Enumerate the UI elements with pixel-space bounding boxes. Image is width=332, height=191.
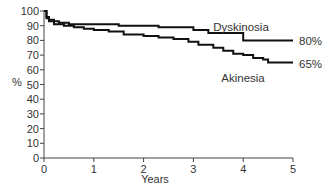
y-tick-label: 30: [27, 108, 39, 120]
y-tick-label: 90: [27, 20, 39, 32]
dyskinosia-end-value: 80%: [299, 35, 322, 47]
akinesia-curve: [44, 11, 293, 62]
x-axis-title: Years: [141, 173, 169, 185]
akinesia-end-value: 65%: [299, 58, 322, 70]
y-tick-label: 50: [27, 79, 39, 91]
series-layer: [44, 11, 293, 62]
y-tick-label: 20: [27, 123, 39, 135]
y-axis: 0102030405060708090100: [21, 5, 44, 164]
y-tick-label: 60: [27, 64, 39, 76]
y-tick-label: 70: [27, 49, 39, 61]
kaplan-meier-chart: 0102030405060708090100 012345 % Years Dy…: [0, 0, 332, 191]
x-tick-label: 4: [240, 163, 246, 175]
akinesia-label: Akinesia: [221, 72, 265, 84]
y-tick-label: 80: [27, 34, 39, 46]
x-tick-label: 3: [190, 163, 196, 175]
x-tick-label: 1: [91, 163, 97, 175]
y-tick-label: 40: [27, 93, 39, 105]
y-tick-label: 0: [33, 152, 39, 164]
y-tick-label: 100: [21, 5, 39, 17]
dyskinosia-label: Dyskinosia: [213, 21, 269, 33]
y-axis-title: %: [12, 76, 22, 88]
y-tick-label: 10: [27, 137, 39, 149]
x-tick-label: 0: [41, 163, 47, 175]
x-tick-label: 5: [290, 163, 296, 175]
